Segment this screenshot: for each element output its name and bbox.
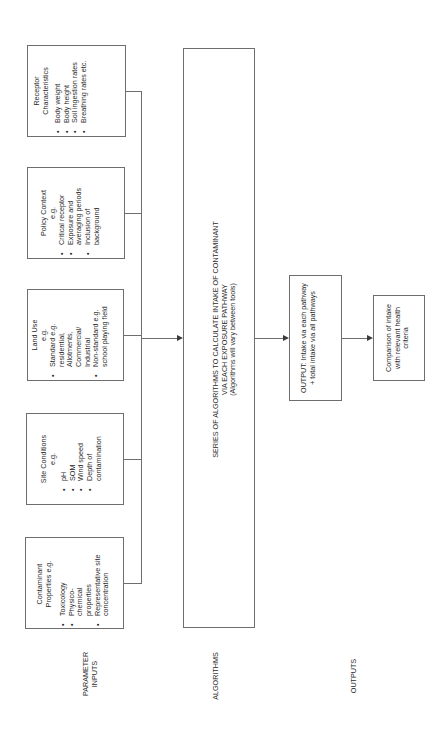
box-title: Contaminant Properties e.g. <box>36 542 53 626</box>
box-title: Site Conditions e.g. <box>40 417 57 501</box>
bullet-icon: • <box>68 623 77 626</box>
connector-landuse <box>124 335 142 336</box>
list-item: •Non-standard e.g. school playing field <box>92 297 109 377</box>
bullet-icon: • <box>49 374 58 377</box>
box-title: Land Use e.g. <box>31 293 48 377</box>
bullet-icon: • <box>84 252 93 255</box>
bullet-list: •Body weight •Body height •Soil ingestio… <box>54 49 88 133</box>
connector-contaminant <box>124 583 142 584</box>
algorithms-box-text: SERIES OF ALGORITHMS TO CALCULATE INTAKE… <box>212 167 242 512</box>
land-use-content: Land Use e.g. •Standard e.g. residential… <box>31 293 121 377</box>
bullet-icon: • <box>67 252 76 255</box>
algorithms-label: ALGORITHMS <box>212 646 221 706</box>
list-item: •Standard e.g. residential, Allotments, … <box>49 317 92 377</box>
site-conditions-content: Site Conditions e.g. •pH •SOM •Wind spee… <box>40 417 120 501</box>
bullet-list: •pH •SOM •Wind speed •Depth of contamina… <box>60 417 103 501</box>
list-item: •Exposure and averaging periods <box>67 171 84 255</box>
bullet-icon: • <box>92 374 101 377</box>
comparison-box-text: Comparison of intake with relevant healt… <box>385 300 415 376</box>
list-item: •Depth of contamination <box>86 437 103 491</box>
arrow-to-comparison <box>342 338 367 339</box>
outputs-label: OUTPUTS <box>350 646 359 706</box>
bullet-list: •Standard e.g. residential, Allotments, … <box>49 293 109 377</box>
output-box-text: OUTPUT: Intake via each pathway + total … <box>300 280 330 396</box>
policy-context-content: Policy Context e.g. •Critical receptor •… <box>40 171 125 255</box>
list-item: •Breathing rates etc. <box>80 49 89 133</box>
connector-receptor <box>126 91 142 92</box>
connector-site <box>124 459 142 460</box>
contaminant-properties-content: Contaminant Properties e.g. •Toxicology … <box>36 542 121 626</box>
box-title: Receptor Characteristics <box>33 49 50 133</box>
arrow-to-algorithms <box>141 338 177 339</box>
receptor-characteristics-content: Receptor Characteristics •Body weight •B… <box>31 49 123 133</box>
list-item: •Inclusion of background <box>84 171 101 255</box>
parameter-inputs-label: PARAMETER INPUTS <box>82 644 99 704</box>
arrow-to-output <box>255 338 283 339</box>
list-item: •Physico-chemical properties <box>68 564 94 626</box>
bullet-list: •Toxicology •Physico-chemical properties… <box>59 542 111 626</box>
list-item: •Representative site concentration <box>94 552 111 626</box>
bullet-icon: • <box>80 130 89 133</box>
bullet-icon: • <box>94 623 103 626</box>
box-title: Policy Context e.g. <box>40 171 57 255</box>
connector-policy <box>125 213 142 214</box>
bullet-list: •Critical receptor •Exposure and averagi… <box>58 171 101 255</box>
bullet-icon: • <box>86 488 95 491</box>
